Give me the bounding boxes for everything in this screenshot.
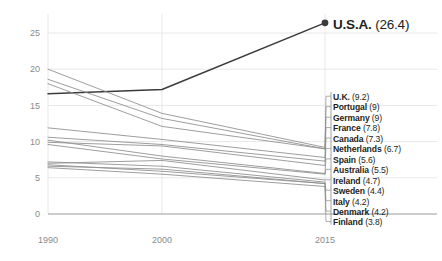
legend-item-name: Australia xyxy=(333,165,369,175)
y-tick-label: 0 xyxy=(35,209,40,219)
legend-leader-line xyxy=(325,169,331,174)
x-tick-label: 2000 xyxy=(152,235,172,245)
legend-item-value: (3.8) xyxy=(365,217,382,227)
legend-item-value: (5.6) xyxy=(358,155,375,165)
series-endpoint-marker xyxy=(322,19,329,26)
legend-item[interactable]: U.K. (9.2) xyxy=(333,92,441,102)
legend-item-name: Canada xyxy=(333,134,363,144)
legend-item-value: (4.2) xyxy=(352,197,369,207)
series-line xyxy=(48,162,325,182)
legend-item[interactable]: Canada (7.3) xyxy=(333,134,441,144)
legend-item-name: Spain xyxy=(333,155,356,165)
y-axis-tick-labels: 0510152025 xyxy=(30,28,40,219)
legend-item-name: Netherlands xyxy=(333,144,382,154)
y-tick-label: 25 xyxy=(30,28,40,38)
legend-leader-line xyxy=(325,184,331,201)
x-tick-label: 2015 xyxy=(315,235,335,245)
x-axis-tick-labels: 199020002015 xyxy=(38,235,335,245)
legend-item-name: Ireland xyxy=(333,176,360,186)
legend-item-value: (4.7) xyxy=(363,176,380,186)
leader-lines-layer xyxy=(325,23,331,225)
legend-item[interactable]: Italy (4.2) xyxy=(333,197,441,207)
legend-item-value: (4.4) xyxy=(367,186,384,196)
legend-item-name: Portugal xyxy=(333,102,367,112)
legend-item[interactable]: Australia (5.5) xyxy=(333,165,441,175)
legend-item-value: (9) xyxy=(369,102,379,112)
legend-leader-line xyxy=(325,182,331,190)
usa-callout-name: U.S.A. xyxy=(333,17,372,32)
legend-item-name: Sweden xyxy=(333,186,365,196)
legend-item-name: Germany xyxy=(333,113,370,123)
legend-item-value: (7.8) xyxy=(363,123,380,133)
legend-item[interactable]: Ireland (4.7) xyxy=(333,176,441,186)
legend-item[interactable]: Denmark (4.2) xyxy=(333,207,441,217)
y-tick-label: 15 xyxy=(30,101,40,111)
x-tick-label: 1990 xyxy=(38,235,58,245)
legend-item-value: (4.2) xyxy=(371,207,388,217)
y-tick-label: 5 xyxy=(35,173,40,183)
legend-item-value: (9) xyxy=(372,113,382,123)
usa-callout-value: (26.4) xyxy=(375,17,409,32)
y-tick-label: 10 xyxy=(30,137,40,147)
legend-item-name: Finland xyxy=(333,217,363,227)
legend-item[interactable]: Germany (9) xyxy=(333,113,441,123)
legend-item[interactable]: Portugal (9) xyxy=(333,102,441,112)
y-tick-label: 20 xyxy=(30,64,40,74)
legend-item-name: Denmark xyxy=(333,207,369,217)
legend-item-value: (5.5) xyxy=(371,165,388,175)
legend-item[interactable]: Finland (3.8) xyxy=(333,217,441,227)
legend-item-value: (7.3) xyxy=(366,134,383,144)
legend-list: U.K. (9.2)Portugal (9)Germany (9)France … xyxy=(333,92,441,228)
legend-item-value: (6.7) xyxy=(384,144,401,154)
series-layer xyxy=(48,19,328,186)
series-line xyxy=(48,23,325,94)
legend-item[interactable]: Sweden (4.4) xyxy=(333,186,441,196)
legend-item-name: Italy xyxy=(333,197,350,207)
chart-root: 0510152025 199020002015 U.S.A. (26.4) U.… xyxy=(0,0,442,261)
series-line xyxy=(48,69,325,147)
legend-item-name: France xyxy=(333,123,361,133)
legend-item[interactable]: Spain (5.6) xyxy=(333,155,441,165)
legend-item[interactable]: Netherlands (6.7) xyxy=(333,144,441,154)
legend-item[interactable]: France (7.8) xyxy=(333,123,441,133)
series-line xyxy=(48,128,325,158)
legend-item-name: U.K. xyxy=(333,92,350,102)
usa-callout-label: U.S.A. (26.4) xyxy=(333,17,409,32)
legend-item-value: (9.2) xyxy=(352,92,369,102)
